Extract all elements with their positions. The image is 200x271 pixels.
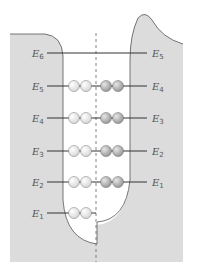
electron-ball-left bbox=[69, 177, 80, 188]
electron-ball-right bbox=[101, 146, 112, 157]
electron-ball-right bbox=[101, 177, 112, 188]
electron-ball-left bbox=[69, 81, 80, 92]
electron-ball-right bbox=[113, 113, 124, 124]
electron-ball-left bbox=[81, 146, 92, 157]
electron-ball-left bbox=[81, 208, 92, 219]
electron-ball-right bbox=[113, 81, 124, 92]
electron-ball-left bbox=[69, 146, 80, 157]
energy-level-diagram: E6E5E5E4E4E3E3E2E2E1E1 bbox=[0, 0, 200, 271]
electron-ball-left bbox=[69, 208, 80, 219]
electron-ball-right bbox=[113, 146, 124, 157]
electron-ball-right bbox=[113, 177, 124, 188]
electron-ball-right bbox=[101, 81, 112, 92]
electron-ball-right bbox=[101, 113, 112, 124]
electron-ball-left bbox=[81, 177, 92, 188]
electron-ball-left bbox=[81, 81, 92, 92]
electron-ball-left bbox=[81, 113, 92, 124]
electron-ball-left bbox=[69, 113, 80, 124]
